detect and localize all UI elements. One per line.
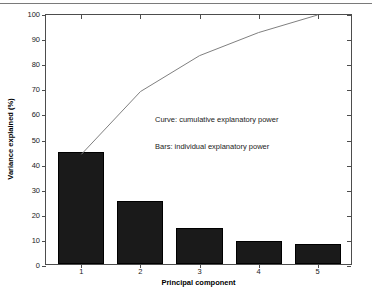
x-axis-title: Principal component [45, 278, 352, 287]
y-axis-tick [42, 216, 46, 217]
y-axis-tick [42, 241, 46, 242]
x-axis-tick-top [259, 15, 260, 19]
x-axis-tick-label: 2 [138, 268, 142, 276]
x-axis-tick-label: 3 [197, 268, 201, 276]
y-axis-tick-label: 90 [32, 36, 40, 44]
y-axis-tick [42, 115, 46, 116]
y-axis-tick [42, 90, 46, 91]
y-axis-tick-label: 20 [32, 212, 40, 220]
y-axis-tick-label: 0 [36, 262, 40, 270]
y-axis-tick [42, 166, 46, 167]
y-axis-tick-label: 100 [27, 11, 40, 19]
y-axis-tick-right [347, 166, 351, 167]
annotation-curve-note: Curve: cumulative explanatory power [155, 115, 278, 124]
plot-inner [46, 15, 351, 264]
plot-area: 010203040506070809010012345 [45, 14, 352, 265]
y-axis-tick-label: 50 [32, 137, 40, 145]
x-axis-tick-label: 4 [256, 268, 260, 276]
y-axis-tick [42, 141, 46, 142]
y-axis-tick-right [347, 141, 351, 142]
pareto-chart-figure: Variance explained (%) 01020304050607080… [0, 0, 372, 297]
y-axis-tick-right [347, 266, 351, 267]
y-axis-tick-right [347, 15, 351, 16]
y-axis-tick-right [347, 65, 351, 66]
y-axis-tick [42, 40, 46, 41]
y-axis-tick-right [347, 115, 351, 116]
x-axis-tick-top [140, 15, 141, 19]
y-axis-tick [42, 65, 46, 66]
y-axis-tick-right [347, 191, 351, 192]
y-axis-tick-right [347, 90, 351, 91]
x-axis-tick-top [318, 15, 319, 19]
y-axis-tick-label: 10 [32, 237, 40, 245]
y-axis-tick-label: 80 [32, 61, 40, 69]
y-axis-tick [42, 266, 46, 267]
x-axis-tick-label: 1 [79, 268, 83, 276]
y-axis-tick-label: 30 [32, 187, 40, 195]
y-axis-tick [42, 191, 46, 192]
y-axis-title: Variance explained (%) [6, 98, 15, 179]
y-axis-tick [42, 15, 46, 16]
x-axis-tick-top [81, 15, 82, 19]
cumulative-curve [46, 15, 353, 266]
y-axis-tick-label: 70 [32, 87, 40, 95]
y-axis-tick-right [347, 40, 351, 41]
y-axis-tick-label: 60 [32, 112, 40, 120]
y-axis-tick-right [347, 241, 351, 242]
annotation-bars-note: Bars: individual explanatory power [155, 142, 269, 151]
y-axis-tick-label: 40 [32, 162, 40, 170]
y-axis-tick-right [347, 216, 351, 217]
x-axis-tick-top [200, 15, 201, 19]
x-axis-tick-label: 5 [315, 268, 319, 276]
